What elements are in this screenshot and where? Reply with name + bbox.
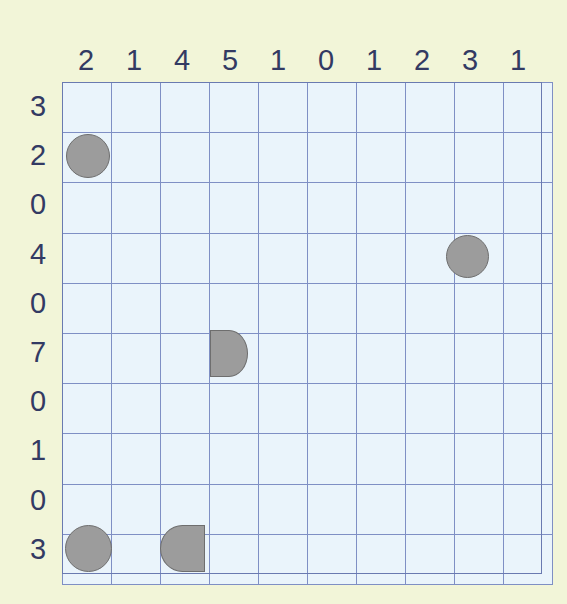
grid-cell-r4c4[interactable] bbox=[210, 233, 259, 283]
grid-cell-r5c10[interactable] bbox=[504, 283, 553, 333]
grid-cell-r2c10[interactable] bbox=[504, 133, 553, 183]
grid-cell-r2c3[interactable] bbox=[161, 133, 210, 183]
grid-cell-r10c6[interactable] bbox=[308, 534, 357, 584]
grid-cell-r8c2[interactable] bbox=[112, 434, 161, 484]
grid-cell-r4c10[interactable] bbox=[504, 233, 553, 283]
grid-cell-r3c10[interactable] bbox=[504, 183, 553, 233]
grid-cell-r8c7[interactable] bbox=[357, 434, 406, 484]
grid-cell-r3c9[interactable] bbox=[455, 183, 504, 233]
grid-cell-r3c8[interactable] bbox=[406, 183, 455, 233]
grid-cell-r10c8[interactable] bbox=[406, 534, 455, 584]
grid-cell-r2c9[interactable] bbox=[455, 133, 504, 183]
grid-cell-r5c5[interactable] bbox=[259, 283, 308, 333]
grid-cell-r9c3[interactable] bbox=[161, 484, 210, 534]
grid-cell-r2c5[interactable] bbox=[259, 133, 308, 183]
grid-cell-r9c10[interactable] bbox=[504, 484, 553, 534]
grid-cell-r10c5[interactable] bbox=[259, 534, 308, 584]
grid-cell-r10c9[interactable] bbox=[455, 534, 504, 584]
grid-cell-r3c2[interactable] bbox=[112, 183, 161, 233]
grid-cell-r4c9[interactable] bbox=[455, 233, 504, 283]
grid-cell-r7c10[interactable] bbox=[504, 384, 553, 434]
grid-cell-r2c2[interactable] bbox=[112, 133, 161, 183]
puzzle-grid[interactable] bbox=[62, 82, 542, 574]
grid-cell-r9c8[interactable] bbox=[406, 484, 455, 534]
grid-cell-r5c9[interactable] bbox=[455, 283, 504, 333]
grid-cell-r7c4[interactable] bbox=[210, 384, 259, 434]
grid-cell-r3c4[interactable] bbox=[210, 183, 259, 233]
grid-cell-r5c2[interactable] bbox=[112, 283, 161, 333]
grid-cell-r9c2[interactable] bbox=[112, 484, 161, 534]
grid-cell-r1c4[interactable] bbox=[210, 83, 259, 133]
grid-cell-r1c3[interactable] bbox=[161, 83, 210, 133]
grid-cell-r7c9[interactable] bbox=[455, 384, 504, 434]
grid-cell-r1c5[interactable] bbox=[259, 83, 308, 133]
grid-cell-r3c7[interactable] bbox=[357, 183, 406, 233]
grid-cell-r6c9[interactable] bbox=[455, 333, 504, 383]
grid-cell-r10c10[interactable] bbox=[504, 534, 553, 584]
grid-cell-r4c6[interactable] bbox=[308, 233, 357, 283]
grid-cell-r1c1[interactable] bbox=[63, 83, 112, 133]
grid-cell-r6c8[interactable] bbox=[406, 333, 455, 383]
grid-cell-r6c4[interactable] bbox=[210, 333, 259, 383]
grid-cell-r5c6[interactable] bbox=[308, 283, 357, 333]
grid-table[interactable] bbox=[62, 82, 553, 585]
grid-cell-r7c2[interactable] bbox=[112, 384, 161, 434]
grid-cell-r7c5[interactable] bbox=[259, 384, 308, 434]
grid-cell-r4c7[interactable] bbox=[357, 233, 406, 283]
grid-cell-r1c6[interactable] bbox=[308, 83, 357, 133]
grid-cell-r1c2[interactable] bbox=[112, 83, 161, 133]
grid-cell-r5c8[interactable] bbox=[406, 283, 455, 333]
grid-cell-r6c5[interactable] bbox=[259, 333, 308, 383]
grid-cell-r1c9[interactable] bbox=[455, 83, 504, 133]
grid-cell-r7c7[interactable] bbox=[357, 384, 406, 434]
grid-cell-r9c6[interactable] bbox=[308, 484, 357, 534]
grid-cell-r1c10[interactable] bbox=[504, 83, 553, 133]
grid-cell-r1c8[interactable] bbox=[406, 83, 455, 133]
grid-cell-r1c7[interactable] bbox=[357, 83, 406, 133]
grid-cell-r9c5[interactable] bbox=[259, 484, 308, 534]
grid-cell-r4c8[interactable] bbox=[406, 233, 455, 283]
grid-cell-r6c1[interactable] bbox=[63, 333, 112, 383]
grid-cell-r7c6[interactable] bbox=[308, 384, 357, 434]
grid-cell-r2c1[interactable] bbox=[63, 133, 112, 183]
grid-cell-r9c7[interactable] bbox=[357, 484, 406, 534]
grid-cell-r3c3[interactable] bbox=[161, 183, 210, 233]
grid-cell-r10c3[interactable] bbox=[161, 534, 210, 584]
grid-cell-r6c7[interactable] bbox=[357, 333, 406, 383]
grid-cell-r3c6[interactable] bbox=[308, 183, 357, 233]
grid-cell-r3c5[interactable] bbox=[259, 183, 308, 233]
grid-cell-r8c6[interactable] bbox=[308, 434, 357, 484]
grid-cell-r8c3[interactable] bbox=[161, 434, 210, 484]
grid-cell-r8c10[interactable] bbox=[504, 434, 553, 484]
grid-cell-r6c3[interactable] bbox=[161, 333, 210, 383]
grid-cell-r3c1[interactable] bbox=[63, 183, 112, 233]
grid-cell-r2c7[interactable] bbox=[357, 133, 406, 183]
grid-cell-r6c10[interactable] bbox=[504, 333, 553, 383]
grid-cell-r8c5[interactable] bbox=[259, 434, 308, 484]
grid-cell-r6c2[interactable] bbox=[112, 333, 161, 383]
grid-cell-r5c4[interactable] bbox=[210, 283, 259, 333]
grid-cell-r7c8[interactable] bbox=[406, 384, 455, 434]
grid-cell-r5c7[interactable] bbox=[357, 283, 406, 333]
grid-cell-r10c1[interactable] bbox=[63, 534, 112, 584]
grid-cell-r7c1[interactable] bbox=[63, 384, 112, 434]
grid-cell-r8c1[interactable] bbox=[63, 434, 112, 484]
grid-cell-r5c1[interactable] bbox=[63, 283, 112, 333]
grid-cell-r8c9[interactable] bbox=[455, 434, 504, 484]
grid-cell-r9c1[interactable] bbox=[63, 484, 112, 534]
grid-cell-r9c4[interactable] bbox=[210, 484, 259, 534]
grid-cell-r4c2[interactable] bbox=[112, 233, 161, 283]
grid-cell-r10c2[interactable] bbox=[112, 534, 161, 584]
grid-cell-r4c3[interactable] bbox=[161, 233, 210, 283]
grid-cell-r4c1[interactable] bbox=[63, 233, 112, 283]
grid-cell-r10c7[interactable] bbox=[357, 534, 406, 584]
grid-cell-r10c4[interactable] bbox=[210, 534, 259, 584]
grid-cell-r6c6[interactable] bbox=[308, 333, 357, 383]
grid-cell-r2c6[interactable] bbox=[308, 133, 357, 183]
grid-cell-r5c3[interactable] bbox=[161, 283, 210, 333]
grid-cell-r2c4[interactable] bbox=[210, 133, 259, 183]
grid-cell-r8c8[interactable] bbox=[406, 434, 455, 484]
grid-cell-r8c4[interactable] bbox=[210, 434, 259, 484]
grid-cell-r9c9[interactable] bbox=[455, 484, 504, 534]
grid-cell-r7c3[interactable] bbox=[161, 384, 210, 434]
